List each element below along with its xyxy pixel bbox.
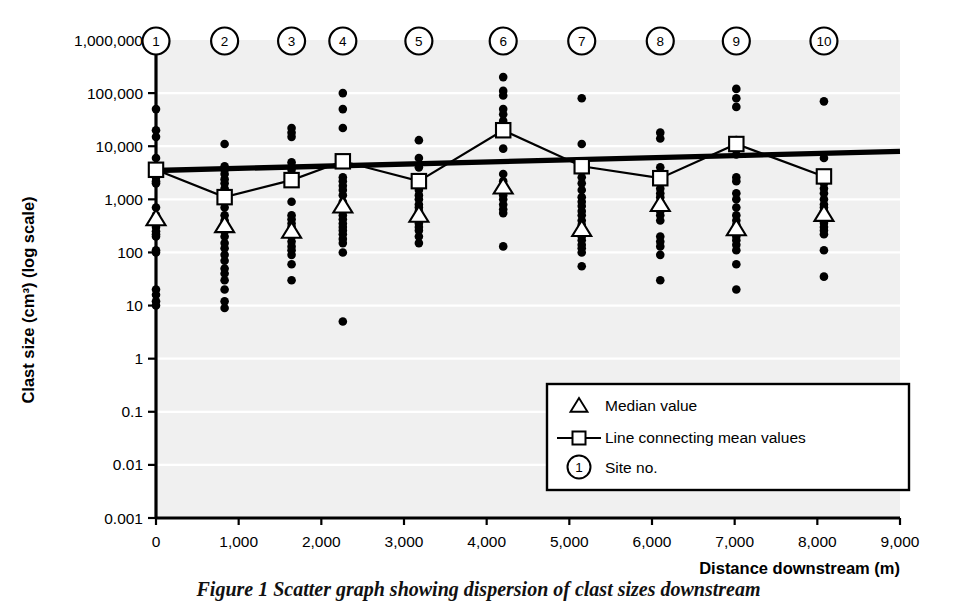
- data-point: [499, 242, 508, 251]
- data-point: [820, 230, 829, 239]
- site-number-label: 8: [657, 34, 665, 49]
- x-tick-label: 9,000: [881, 533, 920, 550]
- data-point: [415, 136, 424, 145]
- y-tick-label: 100: [117, 244, 143, 261]
- data-point: [732, 195, 741, 204]
- data-point: [732, 94, 741, 103]
- mean-marker: [284, 173, 298, 187]
- chart-legend: 1Median valueLine connecting mean values…: [547, 384, 909, 490]
- mean-marker: [729, 137, 743, 151]
- mean-marker: [149, 163, 163, 177]
- data-point: [220, 140, 229, 149]
- legend-item-label: Line connecting mean values: [605, 429, 806, 446]
- y-tick-label: 100,000: [87, 85, 143, 102]
- data-point: [577, 262, 586, 271]
- y-tick-label: 0.001: [104, 510, 143, 527]
- y-tick-label: 1,000,000: [74, 32, 143, 49]
- data-point: [339, 89, 348, 98]
- y-tick-label: 0.01: [113, 456, 143, 473]
- site-number-label: 1: [152, 34, 160, 49]
- x-tick-label: 3,000: [385, 533, 424, 550]
- y-tick-label: 0.1: [121, 403, 143, 420]
- mean-marker: [412, 174, 426, 188]
- scatter-chart: 1,000,000100,00010,0001,0001001010.10.01…: [0, 0, 957, 578]
- data-point: [499, 73, 508, 82]
- data-point: [415, 239, 424, 248]
- mean-marker: [336, 154, 350, 168]
- y-axis-ticks: 1,000,000100,00010,0001,0001001010.10.01…: [74, 32, 156, 527]
- data-point: [152, 179, 161, 188]
- site-number-label: 6: [499, 34, 507, 49]
- x-tick-label: 4,000: [467, 533, 506, 550]
- data-point: [656, 251, 665, 260]
- figure-container: 1,000,000100,00010,0001,0001001010.10.01…: [0, 0, 957, 611]
- mean-marker: [653, 171, 667, 185]
- data-point: [577, 140, 586, 149]
- data-point: [820, 97, 829, 106]
- data-point: [152, 133, 161, 142]
- data-point: [732, 260, 741, 269]
- figure-caption: Figure 1 Scatter graph showing dispersio…: [0, 578, 957, 601]
- site-number-label: 5: [415, 34, 423, 49]
- data-point: [220, 256, 229, 265]
- data-point: [152, 301, 161, 310]
- data-point: [656, 134, 665, 143]
- data-point: [577, 94, 586, 103]
- site-number-label: 4: [339, 34, 347, 49]
- site-number-label: 3: [288, 34, 296, 49]
- data-point: [656, 242, 665, 251]
- site-number-label: 2: [221, 34, 229, 49]
- data-point: [499, 209, 508, 218]
- line-square-marker: [573, 432, 586, 445]
- x-tick-label: 5,000: [550, 533, 589, 550]
- data-point: [339, 248, 348, 257]
- x-tick-label: 1,000: [219, 533, 258, 550]
- data-point: [339, 239, 348, 248]
- site-number-label: 10: [816, 34, 831, 49]
- y-tick-label: 1: [134, 350, 143, 367]
- data-point: [287, 133, 296, 142]
- data-point: [577, 248, 586, 257]
- data-point: [820, 246, 829, 255]
- data-point: [152, 154, 161, 163]
- data-point: [220, 276, 229, 285]
- data-point: [732, 85, 741, 94]
- data-point: [732, 246, 741, 255]
- x-axis-ticks: 01,0002,0003,0004,0005,0006,0007,0008,00…: [152, 518, 920, 550]
- data-point: [339, 317, 348, 326]
- legend-item-label: Site no.: [605, 459, 658, 476]
- legend-item-label: Median value: [605, 397, 697, 414]
- data-point: [287, 260, 296, 269]
- y-tick-label: 10: [126, 297, 144, 314]
- y-axis-label: Clast size (cm³) (log scale): [19, 196, 37, 403]
- data-point: [152, 105, 161, 114]
- data-point: [499, 144, 508, 153]
- data-point: [820, 272, 829, 281]
- x-tick-label: 0: [152, 533, 161, 550]
- data-point: [499, 91, 508, 100]
- data-point: [339, 124, 348, 133]
- data-point: [287, 197, 296, 206]
- mean-marker: [575, 159, 589, 173]
- mean-marker: [217, 190, 231, 204]
- x-tick-label: 6,000: [633, 533, 672, 550]
- circled-number-label: 1: [575, 460, 583, 475]
- y-tick-label: 10,000: [96, 138, 144, 155]
- mean-marker: [817, 169, 831, 183]
- data-point: [287, 251, 296, 260]
- data-point: [656, 216, 665, 225]
- y-tick-label: 1,000: [104, 191, 143, 208]
- data-point: [152, 232, 161, 241]
- data-point: [287, 276, 296, 285]
- x-tick-label: 2,000: [302, 533, 341, 550]
- x-tick-label: 8,000: [798, 533, 837, 550]
- data-point: [732, 285, 741, 294]
- data-point: [220, 285, 229, 294]
- data-point: [220, 304, 229, 313]
- data-point: [732, 177, 741, 186]
- data-point: [152, 248, 161, 257]
- data-point: [732, 203, 741, 212]
- data-point: [656, 276, 665, 285]
- site-number-label: 9: [733, 34, 741, 49]
- mean-marker: [496, 123, 510, 137]
